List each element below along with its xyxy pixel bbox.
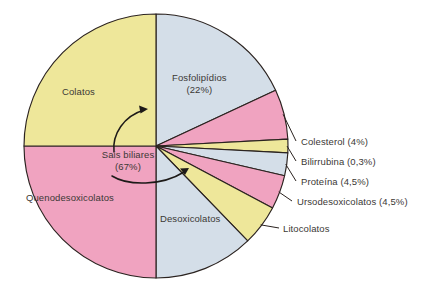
callout-label-proteina-text: Proteína (4,5%) bbox=[301, 176, 369, 187]
leader-line-prote-na bbox=[286, 164, 296, 181]
group-label-sais-biliares-value: (67%) bbox=[91, 161, 165, 173]
slice-label-desoxicolatos-text: Desoxicolatos bbox=[160, 213, 220, 224]
callout-label-colesterol-text: Colesterol (4%) bbox=[301, 136, 368, 147]
callout-label-litocolatos-text: Litocolatos bbox=[283, 223, 330, 234]
slice-label-desoxicolatos: Desoxicolatos bbox=[160, 213, 220, 225]
pie-slice-colatos bbox=[24, 14, 156, 146]
pie-chart-figure: Colatos Fosfolipídios (22%) Quenodesoxic… bbox=[0, 0, 424, 289]
leader-line-ursodesoxicolatos bbox=[279, 192, 292, 201]
slice-label-fosfolipidios-name: Fosfolipídios bbox=[172, 72, 227, 84]
slice-label-fosfolipidios: Fosfolipídios (22%) bbox=[172, 72, 227, 95]
leader-line-litocolatos bbox=[261, 225, 279, 228]
group-label-sais-biliares-name: Sais biliares bbox=[91, 149, 165, 161]
callout-label-ursodesoxicolatos: Ursodesoxicolatos (4,5%) bbox=[297, 196, 408, 208]
callout-label-colesterol: Colesterol (4%) bbox=[301, 136, 368, 148]
slice-label-quenodesoxicolatos-text: Quenodesoxicolatos bbox=[26, 192, 114, 203]
group-label-sais-biliares: Sais biliares (67%) bbox=[91, 149, 165, 172]
slice-label-colatos: Colatos bbox=[62, 86, 95, 98]
slice-label-colatos-text: Colatos bbox=[62, 86, 95, 97]
callout-label-bilirrubina-text: Bilirrubina (0,3%) bbox=[301, 156, 376, 167]
callout-label-ursodesoxicolatos-text: Ursodesoxicolatos (4,5%) bbox=[297, 196, 408, 207]
callout-label-proteina: Proteína (4,5%) bbox=[301, 176, 369, 188]
callout-label-bilirrubina: Bilirrubina (0,3%) bbox=[301, 156, 376, 168]
pie-slices-group bbox=[24, 14, 288, 278]
slice-label-quenodesoxicolatos: Quenodesoxicolatos bbox=[26, 192, 114, 204]
callout-label-litocolatos: Litocolatos bbox=[283, 223, 330, 235]
slice-label-fosfolipidios-value: (22%) bbox=[172, 84, 227, 96]
